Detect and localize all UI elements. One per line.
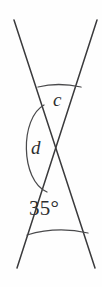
arc-angle-35 (27, 230, 88, 235)
angle-label-35-degrees: 35° (29, 198, 59, 219)
diagram-canvas (0, 0, 102, 287)
angle-label-c: c (53, 90, 61, 109)
arc-angle-c (38, 85, 81, 88)
angle-label-d: d (31, 138, 41, 157)
angle-diagram-figure: c d 35° (0, 0, 102, 287)
line-top-right-to-bottom-left (17, 20, 97, 268)
